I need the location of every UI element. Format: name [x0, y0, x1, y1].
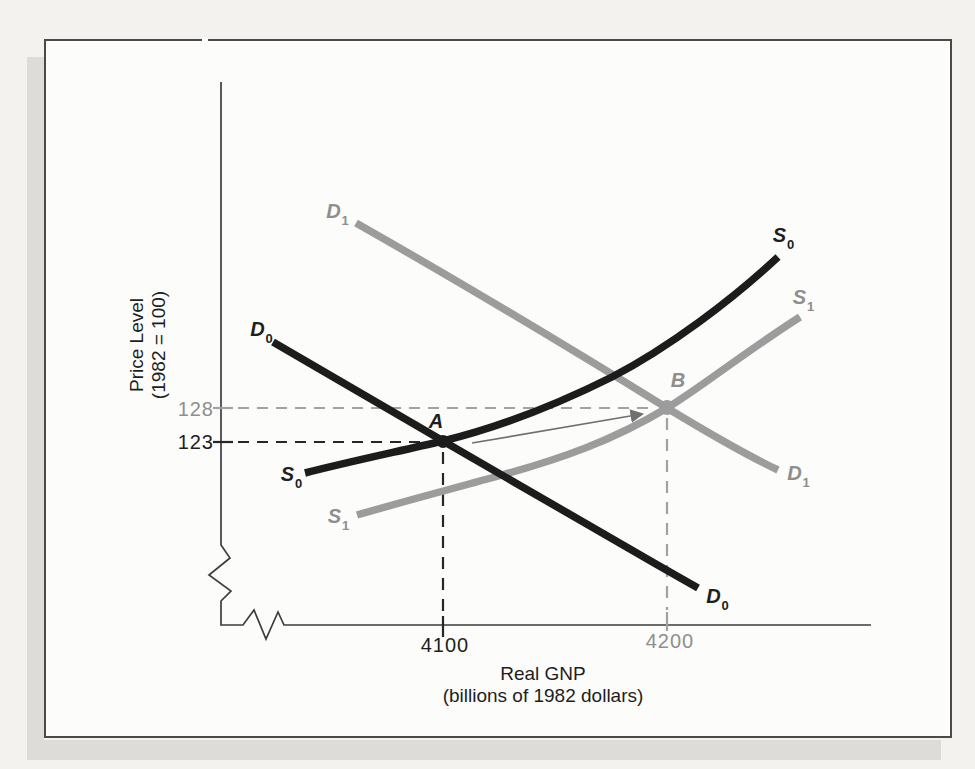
label-d1-start-letter: D [326, 200, 340, 222]
label-s0-start-letter: S [281, 463, 294, 485]
label-s0-end: S0 [773, 224, 794, 251]
x-tick-4100: 4100 [421, 634, 470, 657]
label-s1-start-sub: 1 [342, 518, 349, 533]
label-s0-start: S0 [281, 463, 302, 490]
label-d1-end-letter: D [787, 462, 801, 484]
label-d0-end-letter: D [706, 585, 720, 607]
label-s1-end: S1 [793, 286, 814, 313]
label-d1-end: D1 [787, 462, 809, 489]
label-s0-end-letter: S [773, 224, 786, 246]
curve-s0-supply-initial [305, 257, 778, 473]
x-axis-title-line1: Real GNP [443, 663, 644, 685]
label-s0-start-sub: 0 [295, 476, 302, 491]
x-tick-4200: 4200 [646, 630, 695, 653]
x-axis-title-line2: (billions of 1982 dollars) [443, 685, 644, 707]
label-s1-end-sub: 1 [807, 299, 814, 314]
label-s1-start: S1 [328, 505, 349, 532]
y-axis-title: Price Level (1982 = 100) [126, 291, 171, 399]
y-axis-title-line2: (1982 = 100) [148, 291, 170, 399]
point-a-dot [437, 435, 450, 448]
label-d0-start-sub: 0 [266, 331, 273, 346]
label-s1-end-letter: S [793, 286, 806, 308]
point-b-dot [660, 400, 675, 415]
point-b-label: B [671, 369, 685, 392]
label-d0-start-letter: D [250, 318, 264, 340]
label-d0-end-sub: 0 [722, 598, 729, 613]
label-s0-end-sub: 0 [787, 237, 794, 252]
curve-s1-supply-shifted [357, 317, 800, 515]
label-d0-start: D0 [250, 318, 272, 345]
label-d0-end: D0 [706, 585, 728, 612]
curve-d1-demand-shifted [356, 223, 778, 470]
x-axis-title: Real GNP (billions of 1982 dollars) [443, 663, 644, 708]
y-axis-title-line1: Price Level [126, 291, 148, 399]
label-d1-start: D1 [326, 200, 348, 227]
point-a-label: A [429, 410, 443, 433]
y-tick-123: 123 [178, 431, 214, 454]
label-d1-start-sub: 1 [342, 213, 349, 228]
label-d1-end-sub: 1 [803, 475, 810, 490]
label-s1-start-letter: S [328, 505, 341, 527]
y-tick-128: 128 [178, 398, 214, 421]
